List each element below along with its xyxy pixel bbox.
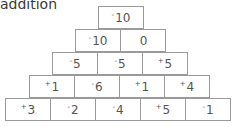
- pyramid-cell: +4: [164, 75, 210, 98]
- cell-value: 6: [95, 80, 103, 94]
- pyramid-cell: -5: [52, 52, 98, 75]
- pyramid-row-3: -5 -5 +5: [52, 53, 188, 76]
- diagram-title: addition: [0, 0, 57, 12]
- cell-sign: +: [180, 80, 186, 88]
- cell-sign: -: [89, 34, 92, 42]
- cell-sign: +: [45, 80, 51, 88]
- cell-sign: -: [112, 11, 115, 19]
- pyramid-row-4: +1 -6 +1 +4: [29, 76, 210, 99]
- cell-value: 10: [92, 34, 107, 48]
- pyramid-cell: -10: [75, 29, 121, 52]
- cell-sign: -: [69, 57, 72, 65]
- cell-sign: +: [158, 57, 164, 65]
- cell-sign: -: [112, 103, 115, 111]
- pyramid-cell: +3: [5, 98, 51, 121]
- pyramid-cell: 0: [120, 29, 166, 52]
- cell-value: 2: [71, 103, 79, 117]
- cell-value: 1: [206, 103, 214, 117]
- pyramid-cell: -1: [185, 98, 231, 121]
- cell-value: 4: [187, 80, 195, 94]
- pyramid-cell: -10: [98, 6, 144, 29]
- cell-value: 4: [116, 103, 124, 117]
- cell-value: 1: [142, 80, 150, 94]
- cell-sign: -: [202, 103, 205, 111]
- pyramid-row-5: +3 -2 -4 +5 -1: [5, 99, 231, 122]
- pyramid-cell: +1: [119, 75, 165, 98]
- pyramid-cell: -5: [97, 52, 143, 75]
- cell-value: 5: [163, 103, 171, 117]
- cell-sign: +: [156, 103, 162, 111]
- cell-sign: -: [114, 57, 117, 65]
- pyramid-row-2: -10 0: [75, 30, 166, 53]
- cell-value: 5: [165, 57, 173, 71]
- pyramid-cell: -2: [50, 98, 96, 121]
- cell-value: 5: [73, 57, 81, 71]
- pyramid-cell: +5: [140, 98, 186, 121]
- pyramid-cell: -4: [95, 98, 141, 121]
- cell-value: 5: [118, 57, 126, 71]
- cell-value: 1: [52, 80, 60, 94]
- cell-value: 10: [115, 11, 130, 25]
- pyramid-cell: -6: [74, 75, 120, 98]
- cell-sign: -: [67, 103, 70, 111]
- cell-sign: +: [135, 80, 141, 88]
- cell-sign: -: [91, 80, 94, 88]
- pyramid-cell: +1: [29, 75, 75, 98]
- pyramid-cell: +5: [142, 52, 188, 75]
- pyramid-row-1: -10: [98, 7, 144, 30]
- cell-value: 3: [28, 103, 36, 117]
- cell-sign: +: [21, 103, 27, 111]
- cell-value: 0: [140, 34, 148, 48]
